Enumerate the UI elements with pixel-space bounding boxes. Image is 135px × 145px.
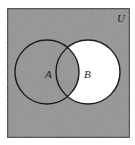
set-a-label: A (44, 68, 52, 80)
set-b-label: B (84, 68, 91, 80)
venn-diagram: U A B (0, 0, 135, 145)
universe-label: U (117, 12, 126, 24)
